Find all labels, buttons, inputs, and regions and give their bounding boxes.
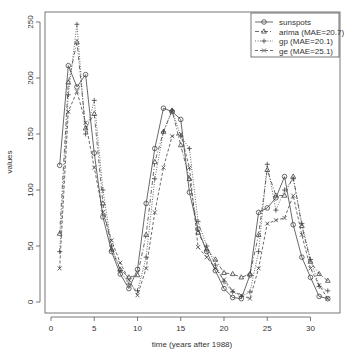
- series-gp: [57, 22, 330, 299]
- line-chart: 050100150200250 051015202530 time (years…: [0, 0, 354, 364]
- y-tick-label: 150: [26, 127, 35, 141]
- x-tick-label: 5: [92, 324, 97, 333]
- series-ge: [58, 89, 330, 300]
- y-tick-label: 200: [26, 71, 35, 85]
- y-tick-label: 50: [26, 241, 35, 250]
- x-tick-label: 30: [306, 324, 315, 333]
- legend-label: ge (MAE=25.1): [279, 47, 333, 56]
- legend-label: sunspots: [279, 18, 311, 27]
- series-layer: [57, 22, 330, 301]
- x-axis: 051015202530: [49, 317, 316, 333]
- legend-label: gp (MAE=20.1): [279, 37, 333, 46]
- x-tick-label: 10: [133, 324, 142, 333]
- y-tick-label: 100: [26, 183, 35, 197]
- x-tick-label: 0: [49, 324, 54, 333]
- y-tick-label: 250: [26, 15, 35, 29]
- y-tick-label: 0: [26, 299, 35, 304]
- x-tick-label: 20: [220, 324, 229, 333]
- y-axis: 050100150200250: [26, 15, 40, 304]
- x-tick-label: 15: [176, 324, 185, 333]
- y-axis-title: values: [5, 150, 14, 173]
- x-axis-title: time (years after 1988): [152, 340, 233, 349]
- legend-label: arima (MAE=20.7): [279, 28, 344, 37]
- legend: sunspotsarima (MAE=20.7)gp (MAE=20.1)ge …: [251, 13, 344, 57]
- x-tick-label: 25: [263, 324, 272, 333]
- series-arima: [57, 40, 330, 283]
